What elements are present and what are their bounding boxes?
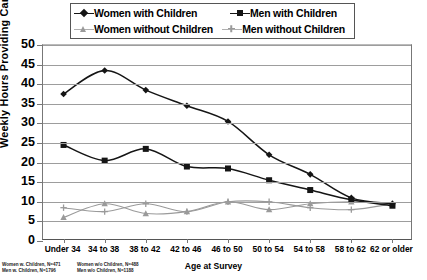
y-axis-tick-label: 10	[21, 201, 35, 202]
legend-label: Women with Children	[94, 7, 197, 19]
y-axis-tick-label: 30	[21, 122, 35, 123]
footnote-right: Women w/o Children, N=488 Men w/o Childr…	[77, 262, 139, 274]
gridline	[43, 104, 411, 105]
gridline	[43, 182, 411, 183]
x-axis-tick	[392, 239, 393, 243]
y-axis-tick	[37, 104, 43, 105]
x-axis-tick	[310, 239, 311, 243]
diamond-marker-icon	[74, 8, 94, 19]
y-axis-title: Weekly Hours Providing Care	[0, 0, 10, 148]
x-axis-tick	[351, 239, 352, 243]
x-axis-tick-label: 42 to 46	[170, 244, 201, 254]
y-axis-tick	[37, 241, 43, 242]
gridline	[43, 123, 411, 124]
footnote-line: Men w. Children, N=1796	[2, 268, 61, 274]
gridline	[43, 221, 411, 222]
x-axis-tick	[269, 239, 270, 243]
legend-row-top: Women with Children Men with Children	[74, 5, 351, 21]
gridline	[43, 202, 411, 203]
x-axis-tick-label: 34 to 38	[88, 244, 119, 254]
x-axis-tick-label: 38 to 42	[129, 244, 160, 254]
gridline	[43, 143, 411, 144]
y-axis-tick	[37, 84, 43, 85]
gridline	[43, 45, 411, 46]
y-axis-tick-label: 35	[21, 103, 35, 104]
legend-row-bottom: Women without Children Men without Child…	[74, 21, 351, 37]
legend-label: Men with Children	[250, 7, 337, 19]
chart-legend: Women with Children Men with Children Wo…	[70, 3, 355, 39]
y-axis-tick	[37, 65, 43, 66]
x-axis-tick-label: 58 to 62	[335, 244, 366, 254]
footnote-line: Men w/o Children, N=1188	[77, 268, 139, 274]
series-women-with-children	[60, 67, 395, 207]
y-axis-tick-label: 50	[21, 44, 35, 45]
x-axis-tick-label: 46 to 50	[211, 244, 242, 254]
y-axis-tick	[37, 182, 43, 183]
y-axis-tick-label: 5	[28, 220, 35, 221]
x-axis-tick-label: Under 34	[45, 244, 81, 254]
y-axis-tick-label: 40	[21, 83, 35, 84]
x-axis-tick	[146, 239, 147, 243]
x-axis-tick	[105, 239, 106, 243]
y-axis-tick	[37, 163, 43, 164]
legend-label: Men without Children	[242, 23, 345, 35]
y-axis-tick	[37, 45, 43, 46]
y-axis-tick-label: 45	[21, 64, 35, 65]
x-axis-tick-label: 62 or older	[370, 244, 413, 254]
y-axis-tick-label: 20	[21, 162, 35, 163]
y-axis-tick	[37, 202, 43, 203]
legend-item-men-without-children: Men without Children	[222, 23, 345, 35]
plot-area: 05101520253035404550	[42, 44, 412, 240]
y-axis-tick-label: 15	[21, 181, 35, 182]
y-axis-tick-label: 25	[21, 142, 35, 143]
legend-label: Women without Children	[94, 23, 213, 35]
gridline	[43, 163, 411, 164]
y-axis-tick-label: 0	[28, 240, 35, 241]
x-axis-tick	[64, 239, 65, 243]
gridline	[43, 84, 411, 85]
y-axis-tick	[37, 221, 43, 222]
chart-figure: Women with Children Men with Children Wo…	[0, 0, 427, 280]
square-marker-icon	[230, 8, 250, 19]
legend-item-women-without-children: Women without Children	[74, 23, 216, 35]
y-axis-tick	[37, 143, 43, 144]
x-axis-tick-label: 54 to 58	[294, 244, 325, 254]
footnote-left: Women w. Children, N=471 Men w. Children…	[2, 262, 61, 274]
legend-item-women-with-children: Women with Children	[74, 7, 224, 19]
x-axis-tick	[228, 239, 229, 243]
x-axis-tick-label: 50 to 54	[253, 244, 284, 254]
y-axis-tick	[37, 123, 43, 124]
triangle-marker-icon	[74, 24, 94, 35]
x-axis-title: Age at Survey	[0, 261, 427, 271]
legend-item-men-with-children: Men with Children	[230, 7, 337, 19]
cross-marker-icon	[222, 24, 242, 35]
x-axis-tick	[187, 239, 188, 243]
gridline	[43, 65, 411, 66]
